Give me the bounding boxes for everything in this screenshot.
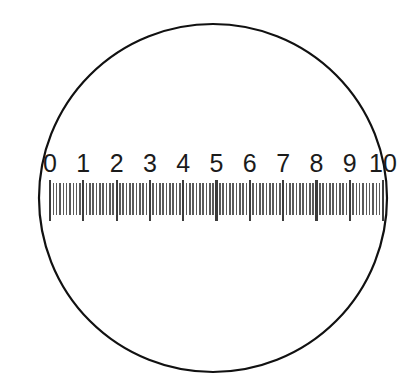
scale-label-7: 7 (276, 149, 290, 177)
reticle-figure: 012345678910 (0, 0, 420, 391)
scale-label-1: 1 (76, 149, 90, 177)
scale-label-6: 6 (243, 149, 257, 177)
scale-label-10: 10 (369, 149, 397, 177)
scale-label-5: 5 (210, 149, 224, 177)
scale-label-9: 9 (343, 149, 357, 177)
scale-label-0: 0 (43, 149, 57, 177)
scale-ticks-group (50, 180, 383, 221)
scale-label-4: 4 (176, 149, 190, 177)
scale-label-2: 2 (110, 149, 124, 177)
scale-label-3: 3 (143, 149, 157, 177)
scale-label-8: 8 (309, 149, 323, 177)
reticle-canvas: 012345678910 (0, 0, 420, 391)
